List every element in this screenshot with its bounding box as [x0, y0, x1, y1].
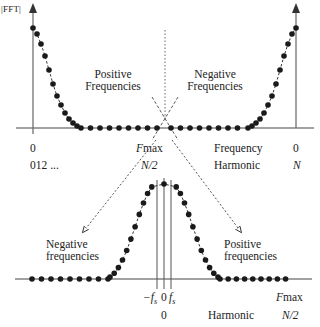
bottom-neg-fs-tick: −fs — [143, 291, 157, 308]
bottom-peak-point — [141, 200, 147, 206]
negative-frequencies-label: Negative Frequencies — [180, 68, 250, 92]
top-left-point — [30, 25, 36, 31]
bottom-peak-point — [161, 181, 167, 187]
top-flat-point — [107, 125, 113, 131]
top-x-start-harmonic: 012 ... — [30, 159, 59, 172]
top-right-point — [277, 67, 283, 73]
bottom-flat-point — [96, 276, 102, 282]
bottom-peak-point — [207, 265, 213, 271]
top-right-point — [289, 31, 295, 37]
bottom-left-curve — [110, 184, 164, 277]
top-left-point — [66, 116, 72, 122]
top-x-mid-frequency: Fmax — [136, 142, 163, 155]
bottom-n-half-label: N/2 — [282, 309, 299, 322]
bottom-peak-point — [120, 257, 126, 263]
top-right-point — [273, 81, 279, 87]
top-flat-point — [168, 125, 174, 131]
top-flat-point — [88, 125, 94, 131]
positive-frequencies-label: Positive Frequencies — [78, 68, 148, 92]
neg-fs-sub: s — [154, 297, 157, 306]
bottom-peak-point — [190, 224, 196, 230]
bottom-flat-point — [225, 276, 231, 282]
bottom-harmonic-label: Harmonic — [208, 309, 254, 322]
top-right-point — [261, 110, 267, 116]
top-frequency-row-label: Frequency — [214, 142, 263, 155]
bottom-flat-point — [39, 276, 45, 282]
bottom-negative-frequencies-label: Negative frequencies — [46, 238, 108, 262]
bottom-flat-point — [234, 276, 240, 282]
y-axis-label: |FFT| — [1, 3, 21, 16]
bottom-flat-point — [283, 276, 289, 282]
bottom-pos-fs-tick: fs — [169, 291, 175, 308]
top-left-point — [50, 81, 56, 87]
top-flat-point — [178, 125, 184, 131]
top-x-mid-harmonic: N/2 — [141, 159, 158, 172]
bottom-flat-point — [77, 276, 83, 282]
bottom-peak-point — [111, 271, 117, 277]
top-harmonic-row-label: Harmonic — [214, 159, 260, 172]
bottom-positive-frequencies-text: Positive frequencies — [224, 238, 286, 262]
top-right-point — [265, 102, 271, 108]
bottom-fmax-f: F — [276, 291, 283, 303]
bottom-peak-point — [211, 271, 217, 277]
bottom-flat-point — [217, 276, 223, 282]
bottom-flat-point — [250, 276, 256, 282]
top-flat-point — [197, 125, 203, 131]
bottom-peak-point — [149, 184, 155, 190]
bottom-peak-point — [194, 236, 200, 242]
bottom-positive-frequencies-label: Positive frequencies — [224, 238, 286, 262]
negative-frequencies-text: Negative Frequencies — [180, 68, 250, 92]
bottom-right-curve — [164, 184, 218, 277]
fmax-max: max — [143, 142, 163, 154]
top-left-point — [34, 31, 40, 37]
fmax-f: F — [136, 142, 143, 154]
top-flat-point — [135, 125, 141, 131]
top-right-point — [257, 116, 263, 122]
top-flat-point — [145, 125, 151, 131]
top-left-point — [58, 102, 64, 108]
bottom-zero-second-row: 0 — [161, 309, 167, 322]
bottom-peak-point — [203, 257, 209, 263]
bottom-peak-point — [182, 200, 188, 206]
top-flat-point — [97, 125, 103, 131]
top-right-point — [285, 41, 291, 47]
top-flat-point — [216, 125, 222, 131]
bottom-peak-point — [186, 212, 192, 218]
pos-fs-sub: s — [172, 297, 175, 306]
top-left-point — [54, 93, 60, 99]
bottom-flat-point — [266, 276, 272, 282]
bottom-zero-tick: 0 — [161, 291, 167, 304]
top-right-point — [253, 120, 259, 126]
neg-fs-text: −f — [143, 291, 154, 303]
top-left-point — [62, 110, 68, 116]
bottom-flat-point — [258, 276, 264, 282]
top-flat-point — [116, 125, 122, 131]
top-right-axis-arrow-icon — [292, 3, 300, 13]
top-flat-point — [187, 125, 193, 131]
bottom-peak-point — [137, 212, 143, 218]
bottom-flat-point — [48, 276, 54, 282]
bottom-peak-point — [178, 191, 184, 197]
top-right-point — [281, 53, 287, 59]
bottom-negative-frequencies-text: Negative frequencies — [46, 238, 108, 262]
positive-frequencies-text: Positive Frequencies — [78, 68, 148, 92]
top-left-point — [78, 125, 84, 131]
top-flat-point — [154, 125, 160, 131]
bottom-peak-point — [173, 184, 179, 190]
bottom-peak-point — [199, 248, 205, 254]
bottom-fmax-max: max — [283, 291, 303, 303]
bottom-flat-point — [58, 276, 64, 282]
top-right-point — [293, 25, 299, 31]
top-flat-point — [235, 125, 241, 131]
top-flat-point — [225, 125, 231, 131]
bottom-peak-point — [128, 236, 134, 242]
bottom-flat-point — [242, 276, 248, 282]
top-x-start-frequency: 0 — [30, 142, 36, 155]
top-y-axis-arrow-icon — [29, 3, 37, 13]
bottom-peak-point — [124, 248, 130, 254]
bottom-flat-point — [86, 276, 92, 282]
top-flat-point — [206, 125, 212, 131]
bottom-flat-point — [275, 276, 281, 282]
bottom-fmax-label: Fmax — [276, 291, 303, 304]
top-x-end-frequency: 0 — [293, 142, 299, 155]
